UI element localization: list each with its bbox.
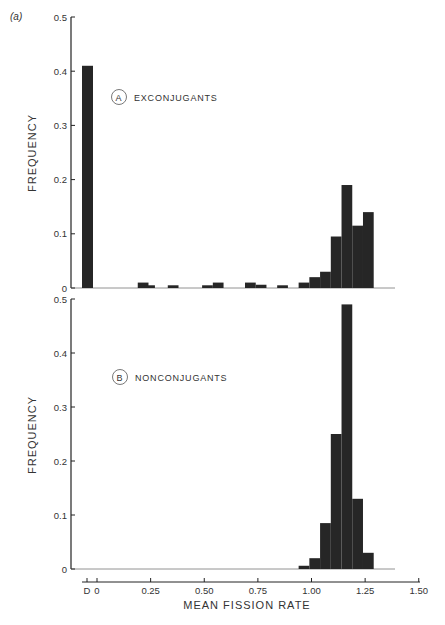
panel-a-bar	[352, 226, 363, 288]
panel-b-y-axis-title: FREQUENCY	[26, 396, 38, 474]
panel-a-bar	[256, 285, 267, 288]
panel-a-legend: A EXCONJUGANTS	[112, 90, 218, 105]
panel-a-bar	[213, 283, 224, 288]
panel-a-bar	[168, 285, 179, 288]
panel-b-letter: B	[117, 373, 124, 383]
x-tick-label: 0.25	[141, 585, 160, 596]
panel-a-exconjugants: FREQUENCY A EXCONJUGANTS 00.10.20.30.40.…	[26, 12, 395, 294]
panel-a-bar	[277, 285, 288, 288]
panel-a-bar	[331, 237, 342, 288]
panel-a-bar	[299, 283, 310, 288]
panel-b-bar	[320, 523, 331, 569]
panel-a-y-tick-label: 0.3	[54, 120, 67, 131]
panel-a-bar	[245, 283, 256, 288]
x-tick-label: 0.75	[249, 585, 268, 596]
x-axis-title: MEAN FISSION RATE	[183, 599, 310, 611]
panel-a-y-axis-title: FREQUENCY	[26, 114, 38, 192]
panel-b-y-tick-label: 0.1	[54, 510, 67, 521]
figure-label: (a)	[10, 11, 22, 22]
panel-b-bar	[342, 304, 353, 569]
panel-a-y-tick-label: 0	[62, 283, 67, 294]
x-tick-label: 1.00	[302, 585, 321, 596]
x-tick-label: 0	[94, 585, 99, 596]
panel-a-bar	[202, 285, 213, 288]
panel-a-bar	[342, 185, 353, 288]
panel-b-bar	[363, 553, 374, 569]
x-tick-label: 1.25	[356, 585, 375, 596]
panel-a-bar	[363, 212, 374, 288]
panel-b-y-tick-label: 0	[62, 564, 67, 575]
panel-a-letter: A	[116, 93, 123, 103]
panel-b-bar	[331, 434, 342, 569]
panel-b-y-tick-label: 0.4	[54, 348, 67, 359]
panel-b-bar	[352, 499, 363, 569]
histogram-figure: (a) FREQUENCY A EXCONJUGANTS 00.10.20.30…	[0, 0, 445, 625]
panel-a-bar	[309, 277, 320, 288]
panel-b-bar	[299, 566, 310, 569]
panel-a-title: EXCONJUGANTS	[134, 93, 218, 103]
panel-a-bar	[82, 66, 93, 288]
panel-b-bar	[309, 558, 320, 569]
panel-b-y-tick-label: 0.5	[54, 294, 67, 305]
x-tick-label: 0.50	[195, 585, 214, 596]
panel-b-y-tick-label: 0.2	[54, 456, 67, 467]
panel-a-y-tick-label: 0.4	[54, 66, 67, 77]
panel-b-title: NONCONJUGANTS	[135, 373, 227, 383]
panel-a-y-tick-label: 0.1	[54, 228, 67, 239]
panel-a-bar	[144, 285, 155, 288]
panel-a-y-tick-label: 0.2	[54, 174, 67, 185]
x-tick-label: D	[84, 585, 91, 596]
panel-b-legend: B NONCONJUGANTS	[113, 370, 228, 385]
panel-a-bar	[320, 272, 331, 288]
x-tick-label: 1.50	[410, 585, 429, 596]
panel-b-nonconjugants: FREQUENCY B NONCONJUGANTS 00.10.20.30.40…	[26, 294, 428, 612]
panel-b-y-tick-label: 0.3	[54, 402, 67, 413]
panel-a-y-tick-label: 0.5	[54, 12, 67, 23]
